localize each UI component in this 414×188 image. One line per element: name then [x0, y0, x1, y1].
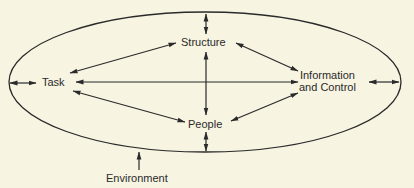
environment-label: Environment — [106, 172, 168, 184]
node-information-and-control: Information and Control — [299, 69, 356, 93]
arrow-task-structure — [70, 43, 176, 73]
diagram-canvas — [0, 0, 414, 188]
node-information-line2: and Control — [299, 81, 356, 93]
node-people: People — [188, 118, 222, 130]
node-task: Task — [42, 76, 65, 88]
node-structure: Structure — [181, 36, 226, 48]
node-information-line1: Information — [299, 69, 356, 81]
arrow-structure-information — [236, 43, 298, 71]
arrow-people-information — [231, 93, 298, 121]
arrow-task-people — [73, 91, 185, 122]
